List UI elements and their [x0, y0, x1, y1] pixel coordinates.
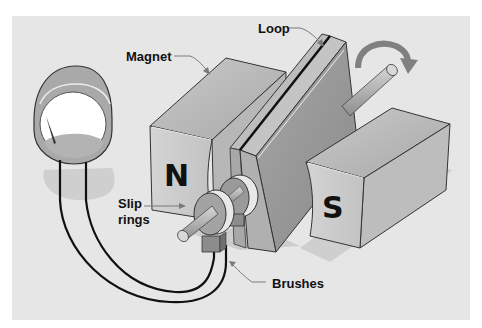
magnet-label: Magnet [126, 49, 172, 64]
south-pole-label: S [322, 190, 344, 225]
north-pole-label: N [164, 158, 189, 193]
slip-rings-label-line2: rings [118, 212, 150, 227]
slip-rings-label-line1: Slip [118, 196, 142, 211]
galvanometer [34, 66, 112, 164]
loop-label: Loop [258, 21, 290, 36]
brushes-label: Brushes [272, 276, 324, 291]
generator-diagram: N S [0, 0, 482, 328]
